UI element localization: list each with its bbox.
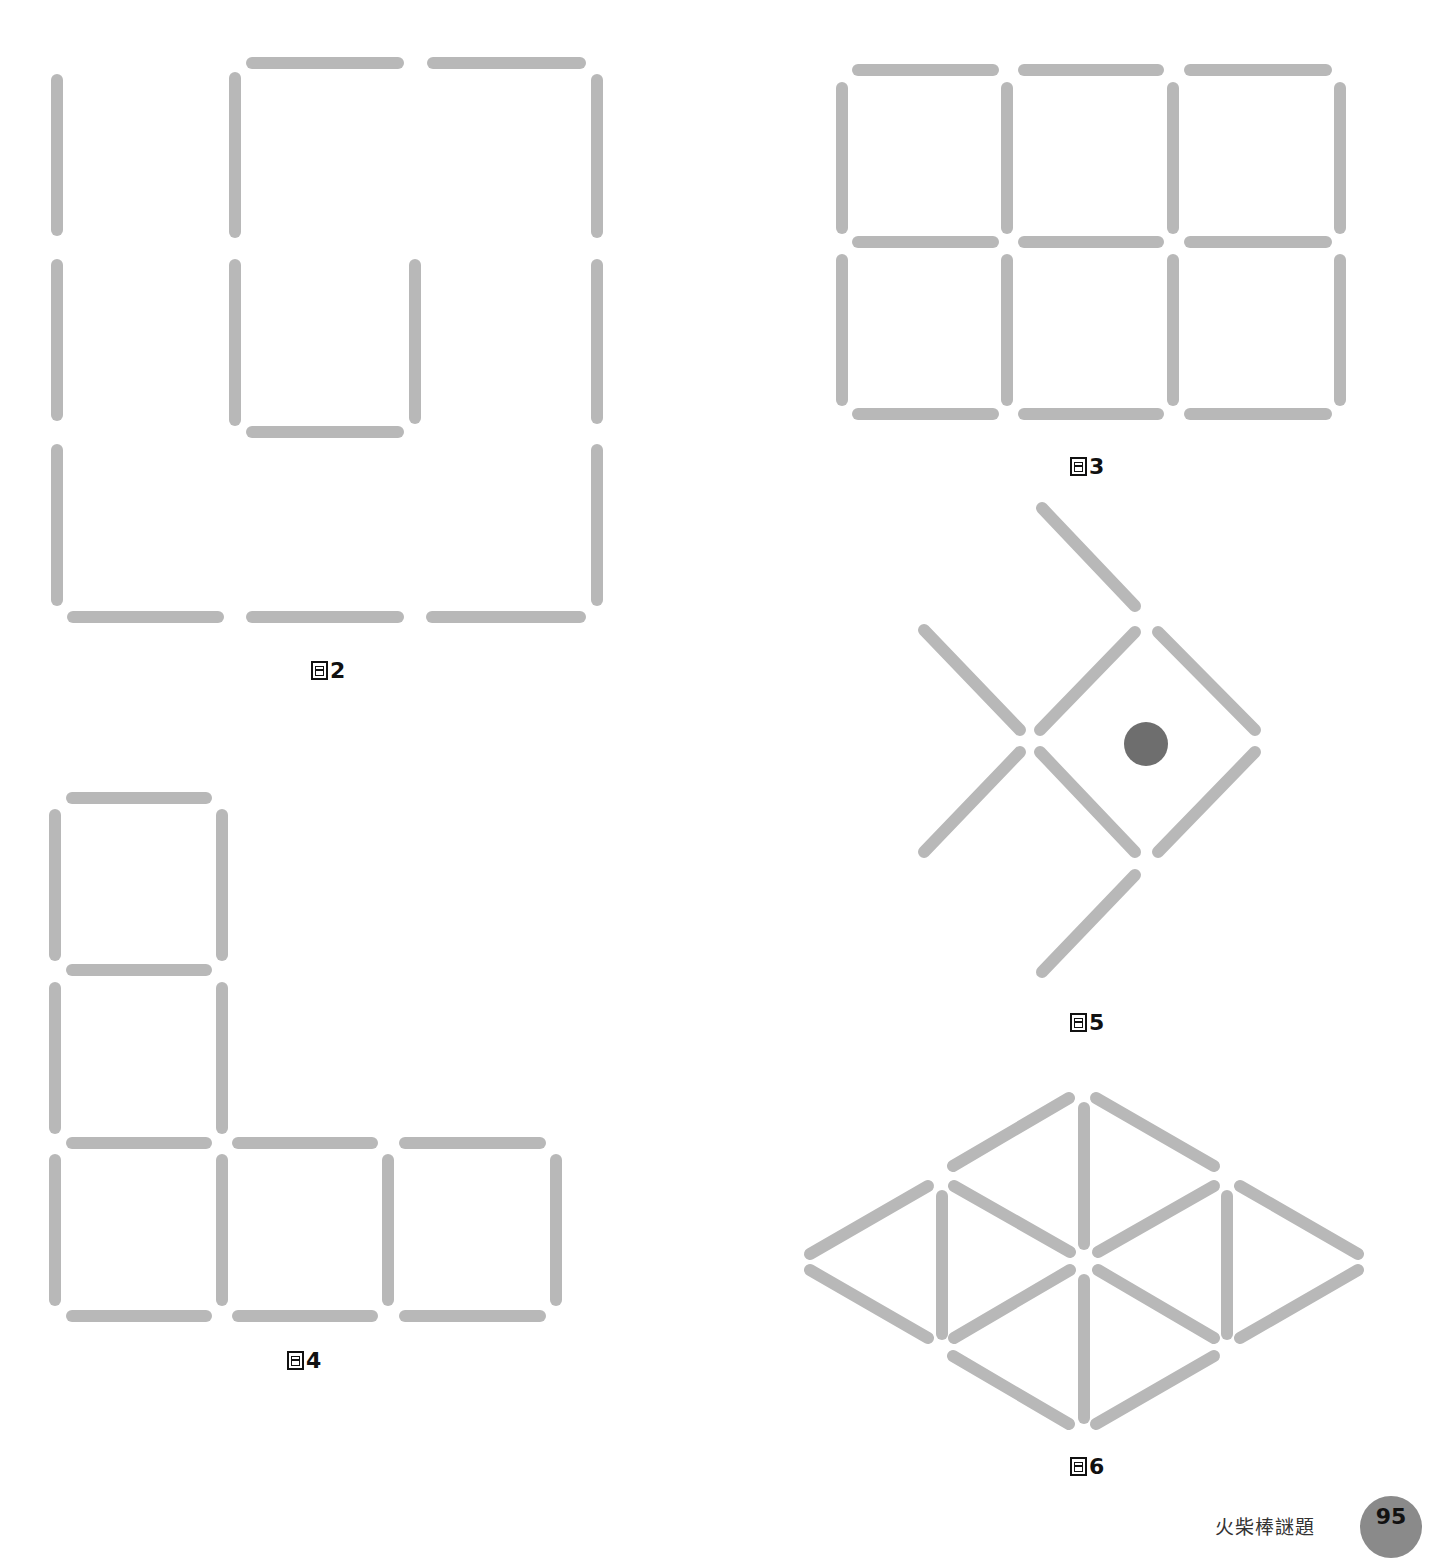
figure-4 bbox=[55, 798, 556, 1316]
figure-number: 4 bbox=[306, 1348, 321, 1373]
figure-caption: 6 bbox=[1070, 1454, 1104, 1479]
figure-caption: 3 bbox=[1070, 454, 1104, 479]
figure-caption: 5 bbox=[1070, 1010, 1104, 1035]
matchstick bbox=[924, 752, 1020, 852]
matchstick bbox=[954, 1270, 1070, 1338]
figure-2 bbox=[57, 63, 597, 617]
figure-number: 3 bbox=[1089, 454, 1104, 479]
figure-number: 2 bbox=[330, 658, 345, 683]
matchstick bbox=[1040, 752, 1135, 852]
figure-caption: 2 bbox=[311, 658, 345, 683]
figure-caption: 4 bbox=[287, 1348, 321, 1373]
matchstick bbox=[1158, 632, 1255, 730]
figure-glyph-icon bbox=[1070, 1013, 1087, 1032]
figure-glyph-icon bbox=[1070, 457, 1087, 476]
matchstick bbox=[954, 1186, 1070, 1252]
matchstick bbox=[1042, 508, 1135, 606]
coin-dot bbox=[1124, 722, 1168, 766]
figure-glyph-icon bbox=[1070, 1457, 1087, 1476]
matchstick bbox=[924, 630, 1020, 730]
page-number: 95 bbox=[1376, 1504, 1407, 1529]
matchstick bbox=[1040, 632, 1135, 730]
matchstick bbox=[1240, 1270, 1358, 1338]
matchstick bbox=[1240, 1186, 1358, 1254]
figure-glyph-icon bbox=[311, 661, 328, 680]
figure-number: 5 bbox=[1089, 1010, 1104, 1035]
matchstick bbox=[810, 1270, 928, 1338]
matchstick bbox=[1098, 1186, 1214, 1252]
figure-6 bbox=[810, 1098, 1358, 1424]
matchstick bbox=[1096, 1356, 1214, 1424]
matchstick bbox=[1098, 1270, 1214, 1338]
book-section-title: 火柴棒謎題 bbox=[1215, 1512, 1315, 1539]
figure-3 bbox=[842, 70, 1340, 414]
figure-glyph-icon bbox=[287, 1351, 304, 1370]
matchstick bbox=[1042, 875, 1135, 972]
figure-5 bbox=[924, 508, 1255, 972]
matchstick bbox=[810, 1186, 928, 1254]
figure-number: 6 bbox=[1089, 1454, 1104, 1479]
page-number-badge: 95 bbox=[1360, 1496, 1422, 1558]
matchstick bbox=[953, 1356, 1069, 1424]
matchstick bbox=[953, 1098, 1069, 1166]
matchstick bbox=[1096, 1098, 1214, 1166]
matchstick bbox=[1158, 752, 1255, 852]
